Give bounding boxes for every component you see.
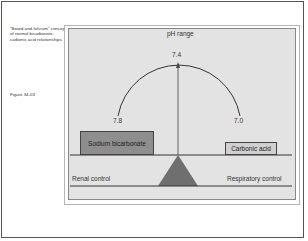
ph-arc (118, 65, 240, 116)
ph-range-title: pH range (167, 30, 194, 37)
ph-right-value: 7.0 (234, 117, 243, 124)
ph-center-value: 7.4 (172, 51, 181, 58)
respiratory-control-label: Respiratory control (227, 175, 282, 182)
balance-diagram-graphics (0, 0, 308, 241)
sodium-bicarbonate-box: Sodium bicarbonate (80, 131, 154, 155)
ph-left-value: 7.8 (113, 117, 122, 124)
fulcrum-triangle (158, 155, 198, 186)
renal-control-label: Renal control (72, 175, 110, 182)
carbonic-acid-box: Carbonic acid (225, 142, 277, 155)
